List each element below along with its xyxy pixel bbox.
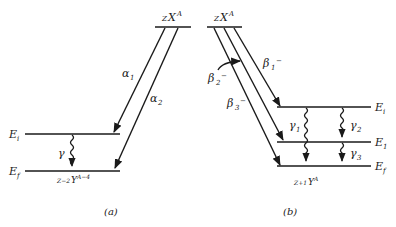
- alpha2-arrow: [115, 28, 178, 168]
- gamma1-sub: 1: [296, 126, 300, 134]
- level-ef-sub-a: f: [16, 172, 21, 180]
- level-ei-sub-b: i: [383, 108, 385, 116]
- parent-prefix-b: Z: [213, 15, 219, 23]
- alpha2-label: α: [150, 92, 158, 105]
- beta3-sub: 3: [235, 104, 240, 112]
- beta1-sub: 1: [271, 64, 275, 72]
- beta1-sup: −: [276, 57, 282, 65]
- gamma3-sub: 3: [357, 154, 362, 162]
- beta2-sup: −: [221, 72, 227, 80]
- level-ef-sub-b: f: [382, 167, 387, 175]
- alpha2-sub: 2: [157, 99, 163, 107]
- beta1-label: β: [262, 57, 269, 70]
- level-ei-label-b: E: [374, 101, 383, 114]
- level-ei-label-a: E: [8, 128, 17, 141]
- daughter-prefix-a: Z−2: [56, 177, 70, 184]
- daughter-sup-a: A−4: [76, 173, 90, 180]
- gamma1-label: γ: [289, 119, 296, 132]
- caption-a: (a): [104, 206, 118, 217]
- gamma3-label: γ: [350, 147, 357, 160]
- gamma1-arrow: [305, 108, 308, 161]
- beta2-sub: 2: [215, 79, 221, 87]
- daughter-prefix-b: Z+1: [293, 179, 307, 186]
- level-e1-sub-b: 1: [383, 143, 387, 151]
- level-ef-label-b: E: [374, 160, 383, 173]
- daughter-sup-b: A: [313, 175, 319, 182]
- gamma2-arrow: [341, 108, 344, 137]
- beta2-arrow: [224, 28, 283, 140]
- caption-b: (b): [283, 206, 297, 217]
- gamma-arrow-a: [71, 135, 74, 166]
- beta3-sup: −: [240, 97, 246, 105]
- parent-symbol-b: X: [219, 11, 229, 24]
- alpha-decay-diagram: Z X A α 1 α 2 E i E f γ Z−2 Y A−4 (a): [8, 10, 191, 217]
- beta3-arrow: [214, 28, 280, 165]
- alpha1-arrow: [114, 28, 165, 132]
- beta2-label: β: [207, 72, 214, 85]
- level-e1-label-b: E: [374, 136, 383, 149]
- gamma3-arrow: [341, 143, 344, 161]
- decay-scheme-diagram: Z X A α 1 α 2 E i E f γ Z−2 Y A−4 (a) Z …: [0, 0, 396, 227]
- parent-symbol-a: X: [167, 11, 177, 24]
- beta3-label: β: [226, 97, 233, 110]
- gamma2-sub: 2: [356, 126, 362, 134]
- parent-prefix-a: Z: [161, 15, 167, 23]
- beta2-pointer: [218, 61, 240, 70]
- alpha1-label: α: [122, 67, 130, 80]
- gamma2-label: γ: [350, 119, 357, 132]
- parent-sup-a: A: [176, 10, 182, 18]
- level-ei-sub-a: i: [17, 135, 19, 143]
- gamma-label-a: γ: [58, 147, 65, 160]
- level-ef-label-a: E: [8, 165, 17, 178]
- beta-decay-diagram: Z X A β 1 − β 2 − β 3 − E i E 1 E f γ: [207, 10, 387, 217]
- alpha1-sub: 1: [130, 74, 134, 82]
- parent-sup-b: A: [228, 10, 234, 18]
